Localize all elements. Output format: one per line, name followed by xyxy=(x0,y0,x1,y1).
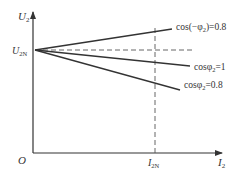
u2n-label: U2N xyxy=(12,45,27,57)
curve-leading-pf xyxy=(35,29,172,50)
y-axis-label: U2 xyxy=(18,10,30,24)
curve-lagging-pf xyxy=(35,50,180,90)
external-characteristic-diagram: U2 I2 O U2N I2N cos(−φ2)=0.8 cosφ2=1 cos… xyxy=(0,0,238,182)
curve-lagging-label: cosφ2=0.8 xyxy=(184,80,223,91)
i2n-label: I2N xyxy=(147,157,160,169)
x-axis-label: I2 xyxy=(217,156,226,170)
curve-unity-pf xyxy=(35,50,190,66)
curve-unity-label: cosφ2=1 xyxy=(194,62,226,73)
origin-label: O xyxy=(18,154,26,166)
curve-leading-label: cos(−φ2)=0.8 xyxy=(176,22,227,33)
